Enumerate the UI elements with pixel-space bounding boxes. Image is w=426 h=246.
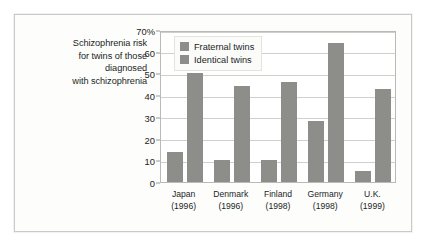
bar-identical [328, 43, 344, 182]
legend-swatch-identical [180, 55, 189, 64]
y-axis-tick-mark [156, 117, 160, 118]
y-axis-tick-mark [156, 161, 160, 162]
y-axis-tick-label: 50 [145, 69, 155, 80]
y-axis-tick-mark [156, 31, 160, 32]
chart-card: Schizophrenia risk for twins of those di… [14, 14, 412, 232]
x-axis-labels: Japan(1996)Denmark(1996)Finland(1998)Ger… [160, 187, 396, 221]
y-axis-tick-mark [156, 74, 160, 75]
bar-identical [281, 82, 297, 182]
x-axis-category-year: (1999) [327, 201, 417, 213]
bar-fraternal [214, 160, 230, 182]
y-axis-tick-label: 40 [145, 91, 155, 102]
y-axis-tick-mark [156, 183, 160, 184]
bar-identical [234, 86, 250, 182]
bar-group [355, 32, 391, 182]
y-axis-tick-mark [156, 96, 160, 97]
y-axis-tick-mark [156, 52, 160, 53]
y-axis-tick-label: 0 [150, 178, 155, 189]
y-axis-tick-mark [156, 139, 160, 140]
y-axis-tick-label: 60 [145, 47, 155, 58]
x-axis-category-label: U.K.(1999) [327, 189, 417, 212]
bar-fraternal [355, 171, 371, 182]
bar-fraternal [308, 121, 324, 182]
legend-item-identical: Identical twins [180, 53, 254, 66]
x-axis-category-name: U.K. [327, 189, 417, 201]
bar-identical [187, 73, 203, 182]
plot-wrapper: 010203040506070% Fraternal twins Identic… [160, 31, 396, 183]
legend-label-identical: Identical twins [194, 55, 252, 65]
legend-item-fraternal: Fraternal twins [180, 40, 254, 53]
bar-fraternal [261, 160, 277, 182]
legend-swatch-fraternal [180, 42, 189, 51]
legend-label-fraternal: Fraternal twins [194, 42, 254, 52]
caption-line-3: diagnosed [21, 62, 147, 75]
caption-line-4: with schizophrenia [21, 75, 147, 88]
y-axis-tick-label: 70% [136, 26, 155, 37]
chart-caption: Schizophrenia risk for twins of those di… [21, 37, 147, 87]
y-axis-tick-label: 30 [145, 112, 155, 123]
bar-fraternal [167, 152, 183, 182]
y-axis-tick-label: 20 [145, 134, 155, 145]
bar-identical [375, 89, 391, 182]
chart-legend: Fraternal twins Identical twins [174, 36, 262, 71]
y-axis-tick-label: 10 [145, 156, 155, 167]
caption-line-2: for twins of those [21, 50, 147, 63]
caption-line-1: Schizophrenia risk [21, 37, 147, 50]
bar-group [261, 32, 297, 182]
bar-group [308, 32, 344, 182]
